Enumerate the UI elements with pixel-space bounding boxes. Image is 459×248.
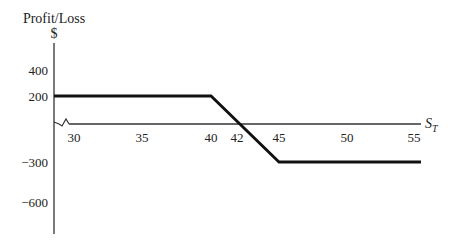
payoff-line <box>54 96 421 162</box>
svg-text:200: 200 <box>29 89 49 104</box>
svg-text:40: 40 <box>205 130 218 145</box>
svg-text:−600: −600 <box>21 195 48 210</box>
x-axis-break-icon <box>54 119 69 126</box>
svg-text:45: 45 <box>273 130 286 145</box>
x-axis-label: ST <box>425 116 439 134</box>
svg-text:42: 42 <box>231 130 244 145</box>
svg-text:−300: −300 <box>21 155 48 170</box>
x-tick-labels: 30 35 40 42 45 50 55 <box>68 130 421 145</box>
svg-text:55: 55 <box>408 130 421 145</box>
y-axis-label: Profit/Loss <box>23 11 85 26</box>
payoff-chart: Profit/Loss $ ST 400 200 −300 −600 30 35… <box>0 0 459 248</box>
y-tick-labels: 400 200 −300 −600 <box>21 63 48 210</box>
svg-text:35: 35 <box>136 130 149 145</box>
svg-text:400: 400 <box>29 63 49 78</box>
y-axis-unit: $ <box>51 26 58 41</box>
svg-text:30: 30 <box>68 130 81 145</box>
svg-text:50: 50 <box>341 130 354 145</box>
